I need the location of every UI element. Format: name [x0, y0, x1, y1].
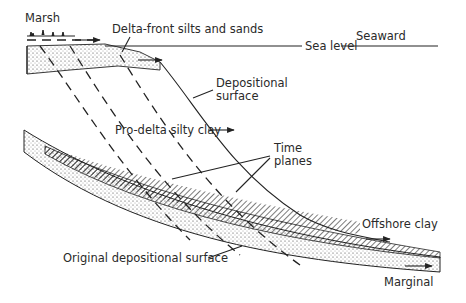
marsh-vegetation-icon	[27, 30, 75, 36]
sea-level-label: Sea level	[305, 39, 357, 53]
seaward-label: Seaward	[356, 29, 406, 43]
offshore-clay-label: Offshore clay	[362, 217, 438, 231]
marsh-label: Marsh	[25, 11, 60, 25]
time-planes-label-2: planes	[274, 154, 312, 168]
depositional-surface-leader	[193, 90, 213, 98]
delta-front-sands-layer	[27, 44, 160, 74]
time-planes-leader-1	[172, 156, 270, 179]
time-planes-label-1: Time	[273, 141, 302, 155]
pro-delta-label: Pro-delta silty clay	[115, 123, 221, 137]
original-surface-label: Original depositional surface	[63, 251, 228, 265]
marginal-label: Marginal	[384, 275, 434, 289]
delta-cross-section-diagram: Sea level Seaward Marsh Delta-front silt…	[0, 0, 466, 303]
depositional-surface-label-1: Depositional	[216, 76, 288, 90]
delta-front-label: Delta-front silts and sands	[112, 22, 263, 36]
depositional-surface-label-2: surface	[216, 89, 259, 103]
